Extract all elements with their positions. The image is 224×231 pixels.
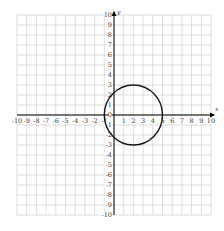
x-tick-label: -6 bbox=[53, 117, 59, 125]
x-tick-label: -7 bbox=[43, 117, 49, 125]
x-axis-label: x bbox=[215, 105, 219, 112]
y-tick-label: 5 bbox=[108, 61, 112, 69]
axes bbox=[17, 11, 215, 215]
y-tick-label: -5 bbox=[106, 161, 112, 169]
x-tick-label: -4 bbox=[72, 117, 78, 125]
y-axis-label: y bbox=[116, 8, 121, 16]
x-tick-label: 2 bbox=[131, 117, 135, 125]
y-tick-label: 6 bbox=[108, 51, 112, 59]
y-tick-label: 1 bbox=[108, 101, 112, 109]
x-tick-label: 6 bbox=[170, 117, 174, 125]
x-tick-label: 9 bbox=[199, 117, 203, 125]
y-tick-label: -8 bbox=[106, 191, 112, 199]
x-tick-label: -3 bbox=[82, 117, 88, 125]
y-tick-label: -9 bbox=[106, 201, 112, 209]
x-tick-label: 4 bbox=[151, 117, 155, 125]
x-tick-label: 8 bbox=[190, 117, 194, 125]
x-tick-label: 7 bbox=[180, 117, 184, 125]
y-tick-label: -10 bbox=[102, 211, 112, 219]
y-tick-label: -6 bbox=[106, 171, 112, 179]
x-tick-label: -2 bbox=[91, 117, 97, 125]
y-tick-label: 10 bbox=[104, 11, 112, 19]
y-tick-label: 8 bbox=[108, 31, 112, 39]
x-tick-label: 10 bbox=[207, 117, 215, 125]
y-tick-label: -3 bbox=[106, 141, 112, 149]
y-tick-label: -7 bbox=[106, 181, 112, 189]
coordinate-plane: -10-9-8-7-6-5-4-3-2-112345678910 1098765… bbox=[0, 0, 224, 231]
y-axis-arrow-icon bbox=[112, 11, 117, 16]
y-tick-label: 4 bbox=[108, 71, 112, 79]
origin-label: 0 bbox=[108, 111, 112, 119]
x-tick-label: 1 bbox=[122, 117, 126, 125]
y-tick-label: 9 bbox=[108, 21, 112, 29]
x-tick-label: -9 bbox=[24, 117, 30, 125]
x-tick-label: 3 bbox=[141, 117, 145, 125]
x-tick-label: -10 bbox=[12, 117, 22, 125]
y-tick-label: 7 bbox=[108, 41, 112, 49]
y-tick-label: -4 bbox=[106, 151, 112, 159]
x-tick-label: -5 bbox=[62, 117, 68, 125]
x-tick-label: -8 bbox=[33, 117, 39, 125]
x-axis-tick-labels: -10-9-8-7-6-5-4-3-2-112345678910 bbox=[11, 117, 215, 125]
y-tick-label: 3 bbox=[108, 81, 112, 89]
